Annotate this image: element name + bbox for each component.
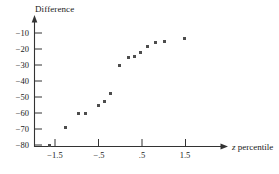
y-axis-ticks [35, 33, 43, 145]
x-tick-label: .5 [127, 150, 157, 160]
data-point [154, 41, 157, 44]
y-tick-label: −60 [3, 108, 29, 118]
x-tick-label: −.5 [84, 150, 114, 160]
y-tick-label: −30 [3, 60, 29, 70]
x-tick-label: 1.5 [170, 150, 200, 160]
data-point [139, 51, 142, 54]
y-tick-label: −80 [3, 140, 29, 150]
x-axis [35, 144, 229, 150]
data-point [163, 40, 166, 43]
x-tick-label: −1.5 [40, 150, 70, 160]
data-point [127, 56, 130, 59]
data-point [64, 126, 67, 129]
data-point [77, 112, 80, 115]
y-tick-label: −10 [3, 28, 29, 38]
data-point [183, 37, 186, 40]
y-tick-label: −40 [3, 76, 29, 86]
y-axis-title: Difference [35, 4, 74, 14]
data-point [84, 112, 87, 115]
data-point [118, 64, 121, 67]
data-point [48, 144, 51, 147]
data-point [103, 100, 106, 103]
x-axis-ticks [55, 139, 186, 147]
data-point [109, 92, 112, 95]
normal-probability-plot-figure: Difference z percentile −10 −20 −30 −40 … [0, 0, 279, 174]
x-axis-title-rest: percentile [236, 142, 274, 152]
data-point [97, 104, 100, 107]
data-point [146, 45, 149, 48]
y-tick-label: −70 [3, 124, 29, 134]
data-point [133, 55, 136, 58]
y-tick-label: −50 [3, 92, 29, 102]
x-axis-title: z percentile [232, 142, 273, 152]
y-tick-label: −20 [3, 44, 29, 54]
